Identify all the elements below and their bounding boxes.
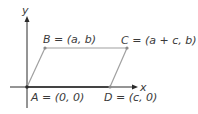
point-a xyxy=(25,85,29,89)
y-axis-label: y xyxy=(21,4,29,17)
label-c: C = (a + c, b) xyxy=(121,34,196,47)
label-b: B = (a, b) xyxy=(43,33,96,46)
point-b xyxy=(43,46,46,49)
x-axis-arrow-icon xyxy=(132,85,138,90)
label-a: A = (0, 0) xyxy=(30,91,84,104)
side-cd xyxy=(110,48,127,87)
label-d: D = (c, 0) xyxy=(104,91,157,104)
parallelogram-diagram: y x B = (a, b) C = (a + c, b) A = (0, 0)… xyxy=(0,0,198,114)
side-ab xyxy=(27,48,45,87)
point-d xyxy=(108,85,111,88)
